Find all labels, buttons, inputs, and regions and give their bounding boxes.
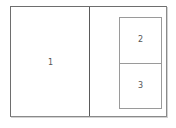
right-region: 2 3	[90, 7, 166, 116]
panel-1: 1	[11, 7, 90, 116]
panel-2: 2	[119, 17, 162, 64]
panel-3-label: 3	[120, 82, 161, 90]
panel-3: 3	[119, 63, 162, 109]
panel-2-label: 2	[120, 36, 161, 44]
panel-1-label: 1	[48, 59, 53, 67]
layout-frame: 1 2 3	[10, 6, 167, 117]
